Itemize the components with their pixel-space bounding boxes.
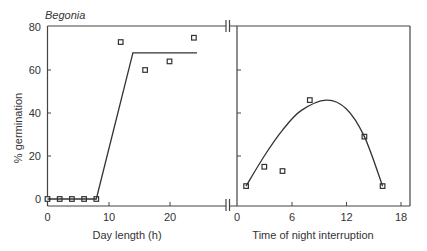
svg-text:18: 18: [395, 211, 407, 223]
svg-text:20: 20: [29, 150, 41, 162]
svg-text:40: 40: [29, 107, 41, 119]
y-axis-label: % germination: [12, 93, 24, 163]
data-point-marker: [280, 169, 285, 174]
right-panel-frame: [230, 26, 411, 206]
left-plot-area: [45, 35, 197, 201]
fit-curve: [246, 100, 383, 186]
data-point-marker: [192, 35, 197, 40]
x-axis-label-right: Time of night interruption: [252, 229, 373, 241]
data-point-marker: [118, 40, 123, 45]
svg-text:6: 6: [289, 211, 295, 223]
data-point-marker: [143, 68, 148, 73]
svg-text:80: 80: [29, 21, 41, 33]
svg-text:60: 60: [29, 64, 41, 76]
data-point-marker: [262, 164, 267, 169]
y-axis-ticks-right: [237, 70, 241, 156]
svg-text:0: 0: [44, 211, 50, 223]
y-axis-tick-labels: 0 20 40 60 80: [29, 21, 41, 205]
svg-text:12: 12: [340, 211, 352, 223]
data-point-marker: [167, 59, 172, 64]
right-plot-area: [244, 98, 385, 189]
x-axis-tick-labels-right: 0 6 12 18: [234, 211, 407, 223]
svg-text:10: 10: [103, 211, 115, 223]
data-point-marker: [308, 98, 313, 103]
axis-break-marks: [226, 20, 230, 211]
svg-text:0: 0: [35, 193, 41, 205]
fit-line: [48, 53, 197, 199]
germination-chart: Begonia 0 20 40 60 80 % g: [0, 0, 427, 251]
svg-text:0: 0: [234, 211, 240, 223]
x-axis-tick-labels-left: 0 10 20: [44, 211, 176, 223]
svg-text:20: 20: [164, 211, 176, 223]
x-axis-label-left: Day length (h): [92, 229, 161, 241]
chart-title: Begonia: [45, 9, 85, 21]
